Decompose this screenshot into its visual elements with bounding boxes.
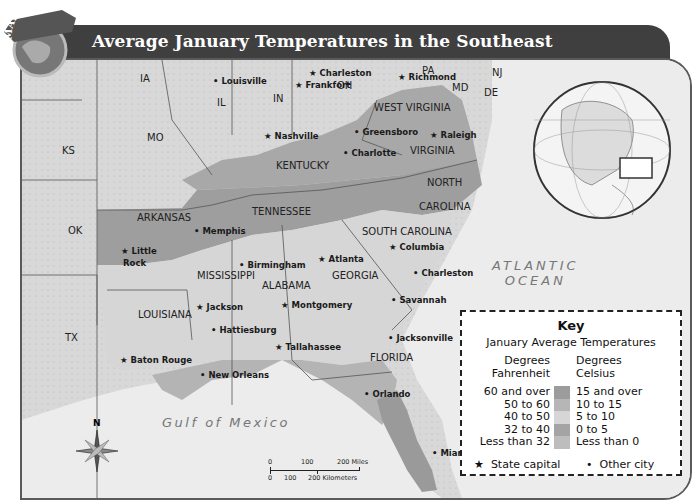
state-label: KS [62, 145, 75, 156]
key-swatch [554, 399, 570, 412]
legend-state-capital: ★ State capital [474, 458, 560, 471]
city-label: ★ Columbia [389, 242, 444, 252]
city-label: • Jacksonville [388, 333, 453, 343]
city-label: • Birmingham [239, 260, 306, 270]
city-label: ★ Atlanta [318, 254, 364, 264]
star-icon: ★ [309, 68, 320, 78]
svg-text:N: N [93, 418, 101, 428]
city-label: ★ Baton Rouge [120, 355, 192, 365]
city-label: Rock [123, 258, 146, 268]
key-celsius-range: Less than 0 [576, 436, 676, 449]
locator-globe [534, 82, 670, 218]
city-label: • Charlotte [343, 148, 396, 158]
state-label: IA [140, 73, 150, 84]
map-key: Key January Average Temperatures Degrees… [460, 310, 682, 476]
state-label: MD [452, 82, 468, 93]
city-label: • Greensboro [354, 127, 418, 137]
key-swatch [554, 411, 570, 424]
scale-bar: 0 100 200 Miles 0 100 200 Kilometers [268, 458, 388, 490]
state-label: WEST VIRGINIA [374, 102, 451, 113]
celsius-header: Degrees Celsius [576, 355, 676, 380]
state-label: MO [147, 132, 164, 143]
state-label: NORTH [427, 177, 462, 188]
state-label: ALABAMA [262, 280, 311, 291]
city-label: • Charleston [413, 268, 473, 278]
star-icon: ★ [275, 342, 286, 352]
star-icon: ★ [121, 246, 132, 256]
star-icon: ★ [398, 72, 409, 82]
dot-icon: • [586, 458, 593, 471]
city-label: • New Orleans [200, 370, 269, 380]
gulf-label: Gulf of Mexico [162, 415, 290, 430]
state-label: NJ [492, 67, 502, 78]
city-label: ★ Richmond [398, 72, 456, 82]
star-icon: ★ [318, 254, 329, 264]
state-label: TENNESSEE [252, 206, 311, 217]
key-fahrenheit-range: Less than 32 [468, 436, 550, 449]
key-swatch [554, 424, 570, 437]
key-swatch [554, 436, 570, 449]
city-label: ★ Raleigh [430, 130, 477, 140]
city-label: • Savannah [391, 295, 446, 305]
city-label: ★ Frankfort [295, 80, 350, 90]
state-label: MISSISSIPPI [197, 270, 255, 281]
state-label: DE [484, 87, 498, 98]
city-label: ★ Nashville [264, 131, 319, 141]
state-label: OK [68, 225, 82, 236]
city-label: ★ Little [121, 246, 157, 256]
locator-box [620, 158, 652, 178]
city-label: • Memphis [194, 226, 246, 236]
atlantic-label: ATLANTIC OCEAN [492, 258, 579, 288]
key-swatch [554, 386, 570, 399]
key-fahrenheit-range: 60 and over [468, 386, 550, 399]
city-label: ★ Jackson [196, 302, 243, 312]
key-fahrenheit-range: 40 to 50 [468, 411, 550, 424]
state-label: ARKANSAS [137, 212, 191, 223]
map-title: Average January Temperatures in the Sout… [92, 31, 553, 51]
city-label: • Hattiesburg [211, 325, 277, 335]
key-subtitle: January Average Temperatures [462, 336, 680, 349]
city-label: • Orlando [364, 389, 410, 399]
city-label: • Louisville [213, 76, 267, 86]
state-label: LOUISIANA [138, 309, 192, 320]
star-icon: ★ [264, 131, 275, 141]
star-icon: ★ [389, 242, 400, 252]
state-label: GEORGIA [332, 270, 378, 281]
state-label: IN [273, 93, 283, 104]
compass-rose-icon: N [72, 418, 122, 478]
star-icon: ★ [295, 80, 306, 90]
star-icon: ★ [474, 458, 484, 471]
state-label: KENTUCKY [276, 160, 329, 171]
legend-other-city: • Other city [586, 458, 654, 471]
key-celsius-range: 5 to 10 [576, 411, 676, 424]
state-label: SOUTH CAROLINA [362, 226, 452, 237]
state-label: IL [217, 97, 226, 108]
map-skill-badge: MAP SKILL [2, 2, 82, 82]
star-icon: ★ [120, 355, 131, 365]
state-label: TX [65, 332, 78, 343]
state-label: FLORIDA [370, 352, 413, 363]
city-label: ★ Montgomery [281, 300, 352, 310]
city-label: ★ Charleston [309, 68, 372, 78]
star-icon: ★ [281, 300, 292, 310]
key-title: Key [462, 318, 680, 333]
star-icon: ★ [430, 130, 441, 140]
key-celsius-range: 15 and over [576, 386, 676, 399]
fahrenheit-header: Degrees Fahrenheit [468, 355, 550, 380]
star-icon: ★ [196, 302, 207, 312]
state-label: CAROLINA [419, 201, 470, 212]
city-label: ★ Tallahassee [275, 342, 341, 352]
state-label: VIRGINIA [410, 145, 455, 156]
